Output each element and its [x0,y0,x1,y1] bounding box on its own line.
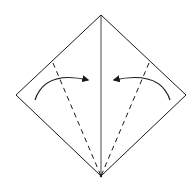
bottom-vertex-dot [100,175,102,177]
origami-diagram [0,0,193,189]
